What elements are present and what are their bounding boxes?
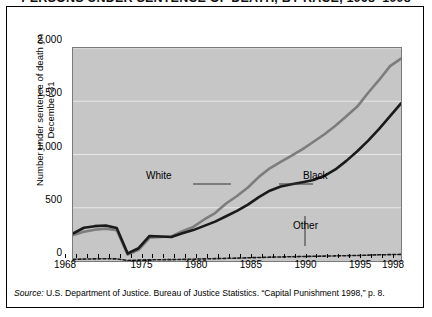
source-note: Source: U.S. Department of Justice. Bure… [14, 288, 418, 298]
x-minor-tick [295, 254, 296, 258]
x-minor-tick [152, 254, 153, 258]
x-minor-tick [120, 254, 121, 258]
x-minor-tick [360, 254, 361, 258]
x-minor-tick [142, 254, 143, 258]
series-label-other: Other [293, 220, 318, 231]
x-minor-tick [273, 254, 274, 258]
x-minor-tick [87, 254, 88, 258]
x-minor-tick [65, 254, 66, 258]
x-minor-tick [382, 254, 383, 258]
x-minor-tick [284, 254, 285, 258]
x-minor-tick [338, 254, 339, 258]
series-label-black: Black [303, 170, 327, 181]
x-tick-1990: 1990 [286, 259, 326, 270]
x-minor-tick [316, 254, 317, 258]
series-label-white: White [146, 170, 172, 181]
x-tick-1980: 1980 [176, 259, 216, 270]
x-tick-1985: 1985 [231, 259, 271, 270]
x-minor-tick [262, 254, 263, 258]
x-axis-tick-labels: 1968197519801985199019951998 [0, 0, 432, 317]
x-tick-1998: 1998 [373, 259, 413, 270]
x-minor-tick [393, 254, 394, 258]
x-tick-1968: 1968 [45, 259, 85, 270]
x-minor-tick [371, 254, 372, 258]
x-minor-tick [251, 254, 252, 258]
source-prefix: Source: [14, 288, 44, 298]
x-minor-tick [185, 254, 186, 258]
x-minor-tick [229, 254, 230, 258]
x-minor-tick [196, 254, 197, 258]
x-minor-tick [327, 254, 328, 258]
x-minor-tick [218, 254, 219, 258]
x-minor-tick [349, 254, 350, 258]
x-minor-tick [207, 254, 208, 258]
x-tick-1975: 1975 [122, 259, 162, 270]
figure-container: PERSONS UNDER SENTENCE OF DEATH, BY RACE… [0, 0, 432, 317]
x-minor-tick [174, 254, 175, 258]
source-text: U.S. Department of Justice. Bureau of Ju… [46, 288, 385, 298]
x-minor-tick [306, 254, 307, 258]
x-minor-tick [109, 254, 110, 258]
x-minor-tick [240, 254, 241, 258]
x-minor-tick [98, 254, 99, 258]
x-minor-tick [76, 254, 77, 258]
x-minor-tick [163, 254, 164, 258]
x-minor-tick [131, 254, 132, 258]
